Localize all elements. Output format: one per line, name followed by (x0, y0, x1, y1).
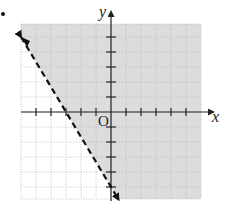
y-axis-label: y (97, 3, 107, 21)
x-axis-label: x (211, 108, 219, 125)
inequality-graph: xyO (0, 0, 225, 208)
origin-label: O (98, 113, 109, 129)
